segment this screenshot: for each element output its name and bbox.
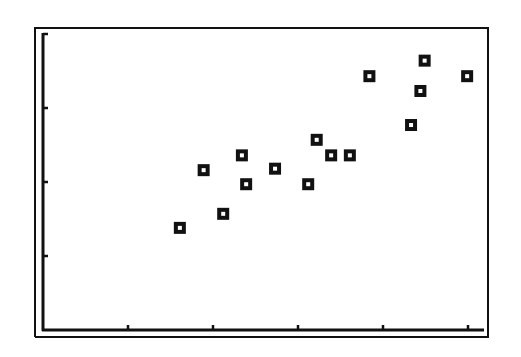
plot-frame [35,28,488,337]
scatter-plot [0,0,521,357]
data-point-hole [240,153,244,157]
data-point-hole [423,59,427,63]
data-point-hole [202,168,206,172]
data-point-hole [367,74,371,78]
data-point-hole [178,226,182,230]
data-point-hole [306,182,310,186]
data-points [174,55,473,234]
axis-ticks [43,34,468,330]
data-point-hole [418,89,422,93]
data-point-hole [221,212,225,216]
axes [42,33,484,331]
data-point-hole [409,123,413,127]
screen-border [35,28,488,337]
data-point-hole [329,153,333,157]
data-point-hole [465,74,469,78]
data-point-hole [244,182,248,186]
data-point-hole [348,153,352,157]
data-point-hole [315,138,319,142]
data-point-hole [273,167,277,171]
